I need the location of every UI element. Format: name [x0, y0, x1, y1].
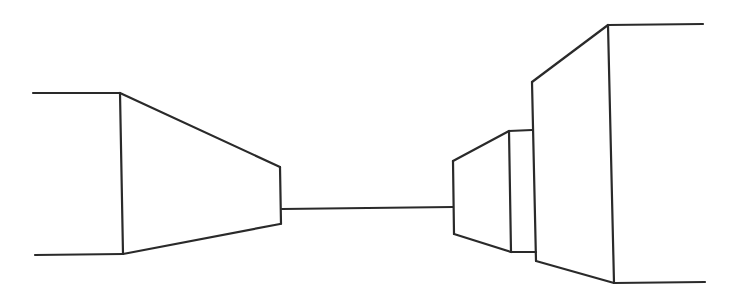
line-segment	[35, 254, 123, 255]
line-segment	[608, 24, 703, 25]
line-segment	[280, 167, 281, 224]
line-segment	[509, 130, 532, 131]
line-segment	[536, 261, 614, 283]
line-segment	[453, 161, 454, 234]
horizon-line	[282, 207, 453, 209]
perspective-drawing	[0, 0, 743, 289]
right-small-block	[453, 130, 536, 252]
right-large-block	[532, 24, 705, 283]
line-segment	[614, 282, 705, 283]
line-segment	[120, 93, 123, 254]
line-segment	[532, 82, 536, 261]
line-segment	[532, 25, 608, 82]
line-segment	[608, 25, 614, 283]
line-segment	[120, 93, 280, 167]
line-segment	[509, 131, 511, 252]
left-block	[33, 93, 281, 255]
line-segment	[123, 224, 280, 254]
line-segment	[282, 207, 453, 209]
line-segment	[453, 131, 509, 161]
line-segment	[454, 234, 511, 252]
